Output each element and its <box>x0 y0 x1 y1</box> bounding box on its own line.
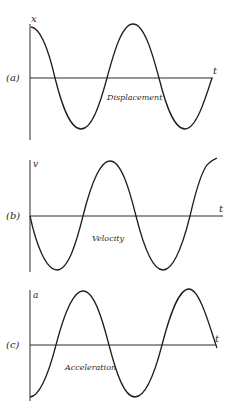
t-axis-label: t <box>215 333 220 344</box>
displacement-chart: x t (a) Displacement <box>6 13 218 140</box>
chart-caption: Velocity <box>92 234 124 243</box>
acceleration-chart: a t (c) Acceleration <box>6 289 220 401</box>
velocity-curve <box>30 158 217 270</box>
chart-caption: Acceleration <box>64 363 116 372</box>
t-axis-label: t <box>213 65 218 76</box>
panel-tag: (b) <box>6 210 20 221</box>
t-axis-label: t <box>219 203 224 214</box>
panel-tag: (a) <box>6 72 20 83</box>
shm-figure: x t (a) Displacement v t (b) Velocity a … <box>0 0 239 417</box>
acceleration-curve <box>30 289 217 397</box>
panel-tag: (c) <box>6 339 20 350</box>
y-axis-label: v <box>33 159 38 169</box>
chart-caption: Displacement <box>106 93 163 102</box>
displacement-curve <box>31 24 212 129</box>
y-axis-label: x <box>31 13 37 24</box>
y-axis-label: a <box>33 290 38 300</box>
velocity-chart: v t (b) Velocity <box>6 158 224 272</box>
